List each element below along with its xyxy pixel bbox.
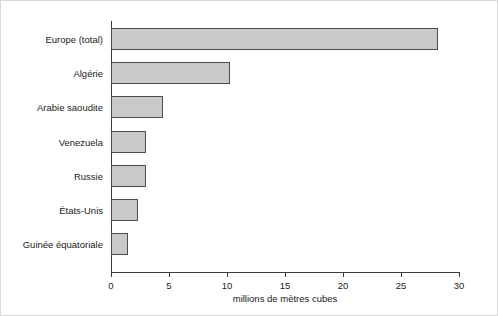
- bar: [111, 233, 128, 255]
- x-axis-title: millions de mètres cubes: [111, 293, 459, 304]
- x-tick-mark: [459, 273, 460, 277]
- x-tick-mark: [169, 273, 170, 277]
- x-tick-label: 0: [108, 280, 113, 291]
- bar: [111, 96, 163, 118]
- bar-row: Europe (total): [111, 28, 459, 50]
- bar-category-label: Venezuela: [59, 136, 103, 147]
- x-tick-mark: [343, 273, 344, 277]
- bar-row: États-Unis: [111, 199, 459, 221]
- x-tick-mark: [285, 273, 286, 277]
- bar-category-label: Arabie saoudite: [37, 102, 103, 113]
- x-tick-mark: [111, 273, 112, 277]
- bar: [111, 199, 138, 221]
- x-tick-label: 20: [338, 280, 349, 291]
- chart-figure: Europe (total)AlgérieArabie saouditeVene…: [0, 0, 498, 316]
- bar-category-label: Europe (total): [45, 34, 103, 45]
- bar-row: Venezuela: [111, 131, 459, 153]
- bar-row: Russie: [111, 165, 459, 187]
- x-tick-label: 15: [280, 280, 291, 291]
- bar: [111, 62, 230, 84]
- x-tick-label: 10: [222, 280, 233, 291]
- x-tick-mark: [227, 273, 228, 277]
- x-tick-label: 25: [396, 280, 407, 291]
- bar: [111, 131, 146, 153]
- bar-category-label: États-Unis: [59, 205, 103, 216]
- bar: [111, 28, 438, 50]
- bar-category-label: Russie: [74, 170, 103, 181]
- x-tick-mark: [401, 273, 402, 277]
- x-tick-label: 5: [166, 280, 171, 291]
- bar-row: Guinée équatoriale: [111, 233, 459, 255]
- bar: [111, 165, 146, 187]
- bar-category-label: Algérie: [73, 68, 103, 79]
- x-tick-label: 30: [454, 280, 465, 291]
- bar-row: Algérie: [111, 62, 459, 84]
- bar-row: Arabie saoudite: [111, 96, 459, 118]
- bar-category-label: Guinée équatoriale: [23, 239, 103, 250]
